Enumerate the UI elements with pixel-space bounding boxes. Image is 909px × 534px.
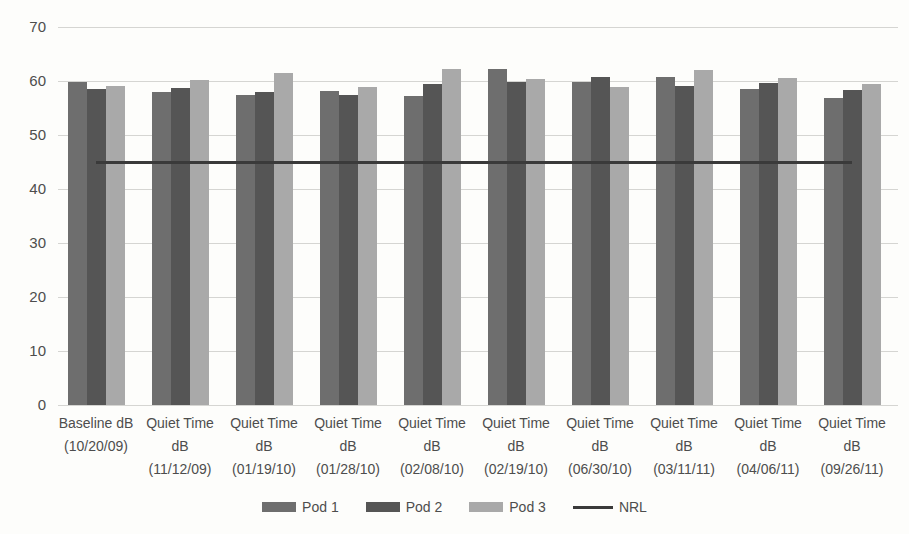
y-axis-tick-label: 10 (4, 341, 46, 361)
legend-swatch-icon (469, 502, 503, 512)
bar-pod1-cat3 (236, 95, 255, 405)
bar-pod1-cat10 (824, 98, 843, 405)
bar-pod1-cat1 (68, 82, 87, 405)
x-axis-category-label: Quiet Time dB (02/08/10) (387, 412, 477, 481)
bar-pod1-cat4 (320, 91, 339, 405)
bar-pod1-cat6 (488, 69, 507, 405)
bar-pod2-cat1 (87, 89, 106, 405)
bar-pod3-cat8 (694, 70, 713, 405)
legend-label: NRL (619, 499, 647, 515)
legend-item-nrl: NRL (573, 499, 647, 515)
y-axis-tick-label: 40 (4, 179, 46, 199)
bar-pod3-cat1 (106, 86, 125, 405)
bar-pod2-cat6 (507, 82, 526, 405)
x-axis-category-label: Quiet Time dB (02/19/10) (471, 412, 561, 481)
bar-pod3-cat10 (862, 84, 881, 405)
bar-pod3-cat9 (778, 78, 797, 405)
bar-pod2-cat5 (423, 84, 442, 405)
nrl-reference-line (96, 161, 852, 164)
bar-pod3-cat3 (274, 73, 293, 405)
legend-item-pod-1: Pod 1 (262, 499, 339, 515)
bar-pod1-cat7 (572, 82, 591, 405)
bar-pod3-cat7 (610, 87, 629, 405)
bar-pod1-cat2 (152, 92, 171, 405)
bar-pod1-cat5 (404, 96, 423, 405)
chart-legend: Pod 1Pod 2Pod 3NRL (0, 499, 909, 515)
legend-line-icon (573, 506, 613, 509)
bar-pod1-cat9 (740, 89, 759, 405)
bar-pod2-cat8 (675, 86, 694, 405)
legend-item-pod-3: Pod 3 (469, 499, 546, 515)
bar-pod2-cat3 (255, 92, 274, 405)
bar-pod3-cat5 (442, 69, 461, 405)
y-axis-tick-label: 0 (4, 395, 46, 415)
bar-pod2-cat10 (843, 90, 862, 405)
gridline-70 (58, 27, 898, 28)
x-axis-category-label: Quiet Time dB (06/30/10) (555, 412, 645, 481)
x-axis-category-label: Quiet Time dB (01/28/10) (303, 412, 393, 481)
bar-pod3-cat6 (526, 79, 545, 405)
x-axis-category-label: Quiet Time dB (01/19/10) (219, 412, 309, 481)
y-axis-tick-label: 50 (4, 125, 46, 145)
bar-pod2-cat7 (591, 77, 610, 405)
x-axis-category-label: Quiet Time dB (03/11/11) (639, 412, 729, 481)
legend-swatch-icon (262, 502, 296, 512)
legend-label: Pod 1 (302, 499, 339, 515)
y-axis-tick-label: 60 (4, 71, 46, 91)
legend-item-pod-2: Pod 2 (366, 499, 443, 515)
bar-pod2-cat2 (171, 88, 190, 405)
y-axis-tick-label: 20 (4, 287, 46, 307)
bar-pod2-cat4 (339, 95, 358, 406)
legend-label: Pod 3 (509, 499, 546, 515)
chart-canvas: 010203040506070Baseline dB (10/20/09)Qui… (0, 0, 909, 534)
legend-label: Pod 2 (406, 499, 443, 515)
x-axis-category-label: Quiet Time dB (09/26/11) (807, 412, 897, 481)
bar-pod3-cat4 (358, 87, 377, 405)
y-axis-tick-label: 30 (4, 233, 46, 253)
legend-swatch-icon (366, 502, 400, 512)
x-axis-category-label: Baseline dB (10/20/09) (51, 412, 141, 458)
x-axis-category-label: Quiet Time dB (04/06/11) (723, 412, 813, 481)
bar-pod2-cat9 (759, 83, 778, 405)
bar-pod3-cat2 (190, 80, 209, 405)
x-axis-category-label: Quiet Time dB (11/12/09) (135, 412, 225, 481)
bar-pod1-cat8 (656, 77, 675, 405)
y-axis-tick-label: 70 (4, 17, 46, 37)
gridline-60 (58, 81, 898, 82)
